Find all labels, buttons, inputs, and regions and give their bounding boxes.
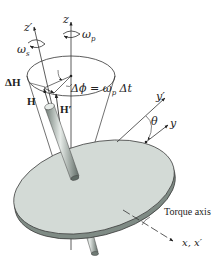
y-prime-label: y′ <box>156 91 165 102</box>
y-axes <box>117 98 168 143</box>
delta-phi-label: Δϕ = ωp Δt <box>71 83 132 97</box>
h-label: H <box>27 96 36 107</box>
gyroscope-diagram <box>0 0 224 270</box>
x-axes-label: x, x′ <box>182 238 202 248</box>
delta-h-vector <box>30 83 54 93</box>
precession-rotation-icon <box>63 31 80 38</box>
spinning-disk <box>4 124 185 254</box>
y-label: y <box>170 118 176 129</box>
omega-s-label: ωs <box>17 44 30 58</box>
theta-label: θ <box>151 116 158 127</box>
h-prime-label: H′ <box>60 104 72 115</box>
z-label: z <box>63 14 69 25</box>
torque-axis-label: Torque axis <box>164 207 211 217</box>
z-prime-label: z′ <box>24 22 32 33</box>
spin-rotation-icon <box>28 40 45 48</box>
delta-h-label: ΔH <box>5 77 20 88</box>
omega-p-label: ωp <box>82 29 95 43</box>
